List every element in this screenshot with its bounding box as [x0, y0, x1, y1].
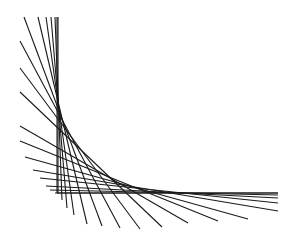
line-envelope-diagram	[0, 0, 296, 238]
envelope-lines	[20, 17, 278, 229]
envelope-line	[20, 92, 162, 227]
envelope-line	[20, 141, 218, 221]
